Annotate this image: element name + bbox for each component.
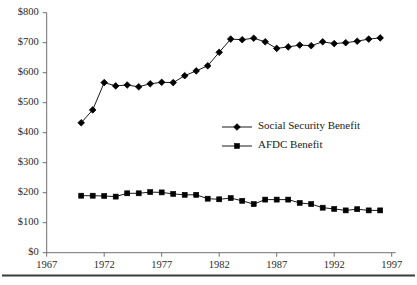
data-point-marker <box>181 72 188 79</box>
data-point-marker <box>285 44 292 51</box>
chart-series <box>78 35 384 127</box>
data-point-marker <box>148 190 153 195</box>
data-point-marker <box>296 42 303 49</box>
data-point-marker <box>320 205 325 210</box>
x-axis-tick-label: 1987 <box>252 259 302 270</box>
chart-series <box>79 190 383 213</box>
data-point-marker <box>354 38 361 45</box>
y-axis-tick-label: $400 <box>0 126 39 137</box>
data-point-marker <box>263 197 268 202</box>
data-point-marker <box>159 190 164 195</box>
chart-canvas <box>0 0 417 285</box>
data-point-marker <box>171 191 176 196</box>
data-point-marker <box>90 193 95 198</box>
data-point-marker <box>182 192 187 197</box>
x-axis-tick-label: 1967 <box>22 259 72 270</box>
data-point-marker <box>239 36 246 43</box>
legend-item-label: AFDC Benefit <box>258 138 322 150</box>
data-point-marker <box>251 202 256 207</box>
y-axis-tick-label: $0 <box>0 246 39 257</box>
y-axis-tick-label: $600 <box>0 66 39 77</box>
data-point-marker <box>343 208 348 213</box>
x-axis-tick-label: 1997 <box>367 259 417 270</box>
y-axis-tick-label: $700 <box>0 36 39 47</box>
data-point-marker <box>250 35 257 42</box>
data-point-marker <box>228 196 233 201</box>
legend-sample-marker <box>234 124 241 131</box>
data-point-marker <box>273 45 280 52</box>
data-point-marker <box>113 194 118 199</box>
data-point-marker <box>194 192 199 197</box>
data-point-marker <box>240 198 245 203</box>
chart-figure: $0$100$200$300$400$500$600$700$800 19671… <box>0 0 417 285</box>
data-point-marker <box>135 84 142 91</box>
x-axis-tick-label: 1972 <box>79 259 129 270</box>
data-point-marker <box>297 200 302 205</box>
data-point-marker <box>79 193 84 198</box>
data-point-marker <box>101 79 108 86</box>
data-point-marker <box>331 40 338 47</box>
y-axis-tick-label: $300 <box>0 156 39 167</box>
data-point-marker <box>342 39 349 46</box>
x-axis-tick-label: 1982 <box>194 259 244 270</box>
data-point-marker <box>217 197 222 202</box>
data-point-marker <box>262 39 269 46</box>
data-point-marker <box>355 207 360 212</box>
data-point-marker <box>332 206 337 211</box>
data-point-marker <box>193 68 200 75</box>
legend-sample-marker <box>235 144 240 149</box>
series-line <box>81 38 380 123</box>
data-point-marker <box>112 83 119 90</box>
data-point-marker <box>366 208 371 213</box>
y-axis-tick-label: $200 <box>0 186 39 197</box>
data-point-marker <box>158 79 165 86</box>
y-axis-tick-label: $800 <box>0 6 39 17</box>
data-point-marker <box>378 208 383 213</box>
y-axis-tick-label: $100 <box>0 216 39 227</box>
data-point-marker <box>125 191 130 196</box>
y-axis-tick-label: $500 <box>0 96 39 107</box>
data-point-marker <box>205 196 210 201</box>
data-point-marker <box>319 39 326 46</box>
data-point-marker <box>102 194 107 199</box>
data-point-marker <box>274 197 279 202</box>
x-axis-tick-label: 1977 <box>137 259 187 270</box>
legend-item-label: Social Security Benefit <box>258 119 360 131</box>
data-point-marker <box>170 79 177 86</box>
data-point-marker <box>308 42 315 49</box>
x-axis-tick-label: 1992 <box>309 259 359 270</box>
data-point-marker <box>365 36 372 43</box>
data-point-marker <box>377 35 384 42</box>
data-point-marker <box>309 202 314 207</box>
data-point-marker <box>286 197 291 202</box>
data-point-marker <box>124 82 131 89</box>
data-point-marker <box>136 191 141 196</box>
data-point-marker <box>147 81 154 88</box>
